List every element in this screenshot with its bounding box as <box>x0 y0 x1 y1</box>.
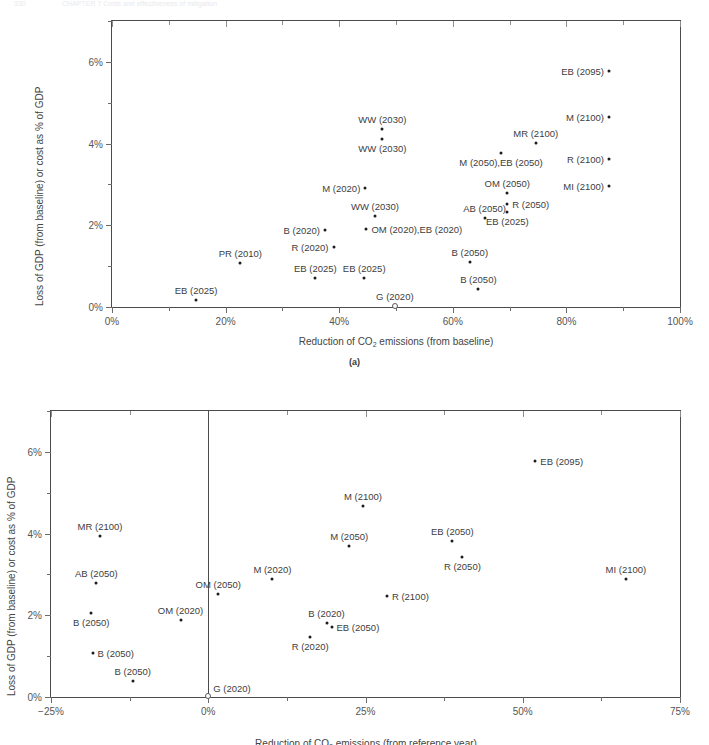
data-point-b-15 <box>451 539 454 542</box>
data-point-label-a-9: WW (2030) <box>358 114 406 125</box>
figure-b: Loss of GDP (from baseline) or cost as %… <box>0 378 709 745</box>
data-point-a-1 <box>239 261 242 264</box>
x-top-minor-tick-b-3 <box>601 411 602 415</box>
data-point-a-16 <box>506 211 509 214</box>
data-point-label-a-1: PR (2010) <box>219 248 262 259</box>
data-point-label-a-18: OM (2050) <box>485 178 530 189</box>
data-point-label-a-5: EB (2025) <box>343 263 386 274</box>
data-point-label-a-15: M (2050),EB (2050) <box>459 157 542 168</box>
x-top-minor-tick-a-1 <box>282 21 283 25</box>
data-point-a-11 <box>392 303 398 309</box>
y-minor-tick-a-0 <box>108 266 112 267</box>
data-point-b-7 <box>217 593 220 596</box>
data-point-label-b-15: EB (2050) <box>431 526 474 537</box>
data-point-label-a-0: EB (2025) <box>175 285 218 296</box>
y-minor-tick-a-2 <box>108 103 112 104</box>
data-point-a-18 <box>506 192 509 195</box>
running-head: 330 CHAPTER 7 Costs and effectiveness of… <box>0 0 709 9</box>
data-point-label-a-11: G (2020) <box>376 291 414 302</box>
x-axis-title-b-pre: Reduction of CO <box>255 738 329 745</box>
figure-a: Loss of GDP (from baseline) or cost as %… <box>0 14 709 364</box>
y-tick-b-1 <box>45 615 51 616</box>
data-point-label-a-20: EB (2095) <box>561 65 604 76</box>
data-point-label-b-5: OM (2020) <box>158 605 203 616</box>
data-point-b-6 <box>205 693 211 699</box>
data-point-b-0 <box>91 651 94 654</box>
data-point-label-a-7: OM (2020),EB (2020) <box>371 223 462 234</box>
x-tick-label-a-2: 40% <box>329 316 349 327</box>
data-point-b-12 <box>348 544 351 547</box>
data-point-label-b-14: R (2100) <box>392 591 429 602</box>
x-tick-a-4 <box>566 307 567 313</box>
x-axis-title-a-sub: 2 <box>373 341 377 348</box>
data-point-a-6 <box>364 186 367 189</box>
x-axis-title-b-post: emissions (from reference year) <box>333 738 477 745</box>
x-minor-tick-a-1 <box>282 307 283 311</box>
x-axis-title-a-post: emissions (from baseline) <box>377 336 494 347</box>
x-tick-a-1 <box>226 307 227 313</box>
data-point-b-13 <box>361 504 364 507</box>
data-point-label-b-17: EB (2095) <box>540 455 583 466</box>
y-tick-b-2 <box>45 534 51 535</box>
x-top-tick-b-0 <box>51 411 52 417</box>
data-point-b-8 <box>271 578 274 581</box>
data-point-a-0 <box>195 298 198 301</box>
data-point-a-23 <box>608 185 611 188</box>
data-point-label-b-6: G (2020) <box>213 683 251 694</box>
y-tick-label-b-0: 0% <box>28 692 42 703</box>
data-point-label-b-1: B (2050) <box>73 617 109 628</box>
x-top-minor-tick-a-2 <box>396 21 397 25</box>
data-point-b-17 <box>534 459 537 462</box>
data-point-a-5 <box>363 276 366 279</box>
data-point-b-10 <box>325 621 328 624</box>
x-axis-title-b: Reduction of CO2 emissions (from referen… <box>255 738 477 745</box>
data-point-label-a-6: M (2020) <box>322 182 360 193</box>
data-point-b-1 <box>90 612 93 615</box>
x-top-minor-tick-a-3 <box>510 21 511 25</box>
data-point-label-b-9: R (2020) <box>292 641 329 652</box>
data-point-label-a-2: EB (2025) <box>294 263 337 274</box>
y-tick-a-3 <box>106 62 112 63</box>
data-point-label-b-2: AB (2050) <box>75 568 118 579</box>
y-tick-label-b-3: 6% <box>28 446 42 457</box>
data-point-label-b-18: MI (2100) <box>606 564 647 575</box>
x-tick-label-a-4: 80% <box>556 316 576 327</box>
x-minor-tick-a-3 <box>510 307 511 311</box>
x-top-tick-a-0 <box>112 21 113 27</box>
data-point-a-7 <box>365 227 368 230</box>
x-top-tick-a-4 <box>566 21 567 27</box>
y-tick-label-a-0: 0% <box>89 302 103 313</box>
data-point-label-b-8: M (2020) <box>253 564 291 575</box>
data-point-label-a-10: WW (2030) <box>358 143 406 154</box>
data-point-b-11 <box>330 625 333 628</box>
data-point-label-a-13: B (2050) <box>460 274 496 285</box>
data-point-b-18 <box>624 577 627 580</box>
data-point-label-b-0: B (2050) <box>98 647 134 658</box>
data-point-label-a-3: B (2020) <box>284 225 320 236</box>
x-minor-tick-b-0 <box>130 697 131 701</box>
plot-area-a: 0%2%4%6%0%20%40%60%80%100%EB (2025)PR (2… <box>111 20 681 308</box>
x-minor-tick-a-0 <box>169 307 170 311</box>
data-point-a-9 <box>381 128 384 131</box>
x-axis-title-a: Reduction of CO2 emissions (from baselin… <box>299 336 494 347</box>
x-top-tick-b-3 <box>523 411 524 417</box>
y-tick-label-a-1: 2% <box>89 220 103 231</box>
y-minor-tick-b-2 <box>47 493 51 494</box>
data-point-label-a-23: MI (2100) <box>563 181 604 192</box>
data-point-label-b-12: M (2050) <box>330 531 368 542</box>
x-tick-a-0 <box>112 307 113 313</box>
x-top-minor-tick-b-1 <box>287 411 288 415</box>
x-tick-label-b-0: −25% <box>38 706 64 717</box>
x-top-tick-a-1 <box>226 21 227 27</box>
data-point-b-9 <box>309 635 312 638</box>
x-axis-title-a-pre: Reduction of CO <box>299 336 373 347</box>
x-top-minor-tick-b-0 <box>130 411 131 415</box>
x-tick-label-a-0: 0% <box>105 316 119 327</box>
x-tick-b-2 <box>366 697 367 703</box>
x-top-minor-tick-a-4 <box>623 21 624 25</box>
x-top-tick-b-4 <box>680 411 681 417</box>
x-top-minor-tick-b-2 <box>444 411 445 415</box>
data-point-label-b-4: B (2050) <box>115 666 151 677</box>
data-point-b-2 <box>95 582 98 585</box>
data-point-label-b-7: OM (2050) <box>196 579 241 590</box>
